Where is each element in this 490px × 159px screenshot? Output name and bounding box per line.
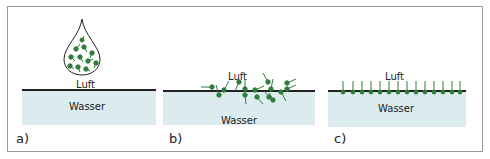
panel-letter: b) bbox=[169, 131, 182, 146]
molecules-disordered bbox=[161, 7, 326, 153]
panel-letter: c) bbox=[334, 131, 346, 146]
panel-b: Luft Wasser b) bbox=[161, 7, 326, 153]
panel-letter: a) bbox=[16, 131, 29, 146]
panel-a: Luft Wasser a) bbox=[8, 7, 168, 153]
molecules-monolayer bbox=[326, 7, 484, 153]
panel-c: Luft Wasser c) bbox=[326, 7, 484, 153]
figure-frame: Luft Wasser a) Luft Wasser bbox=[7, 6, 483, 152]
water-label: Wasser bbox=[69, 101, 105, 112]
